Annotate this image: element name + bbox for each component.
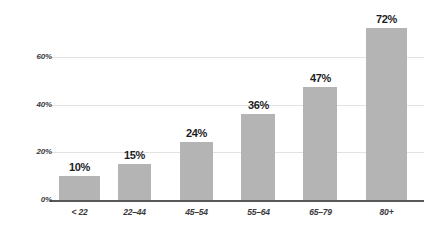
y-tick-label-0: 0% (8, 195, 52, 205)
bar-45-54[interactable] (180, 142, 213, 200)
bar-lt-22[interactable] (59, 176, 100, 200)
y-tick-label-20: 20% (8, 147, 52, 157)
bar-value-45-54: 24% (166, 127, 227, 139)
y-tick-label-40: 40% (8, 100, 52, 110)
x-tick-label-22-44: 22–44 (104, 207, 165, 218)
plot-area: 60% 40% 20% 0% 10% 15% 24% 36% 47% 72% <… (0, 0, 431, 233)
bar-value-80-plus: 72% (356, 13, 417, 25)
x-axis-line (50, 200, 424, 202)
x-tick-label-lt-22: < 22 (49, 207, 110, 218)
bar-55-64[interactable] (241, 114, 275, 200)
bar-65-79[interactable] (303, 87, 337, 200)
bar-chart: 60% 40% 20% 0% 10% 15% 24% 36% 47% 72% <… (0, 0, 431, 233)
x-tick-label-55-64: 55–64 (228, 207, 289, 218)
bar-22-44[interactable] (118, 164, 151, 200)
bar-80-plus[interactable] (366, 28, 407, 200)
y-tick-label-60: 60% (8, 52, 52, 62)
bar-value-22-44: 15% (104, 149, 165, 161)
x-tick-label-80-plus: 80+ (356, 207, 417, 218)
bar-value-lt-22: 10% (49, 161, 110, 173)
bar-value-65-79: 47% (290, 72, 351, 84)
x-tick-label-45-54: 45–54 (166, 207, 227, 218)
bar-value-55-64: 36% (228, 99, 289, 111)
x-tick-label-65-79: 65–79 (290, 207, 351, 218)
